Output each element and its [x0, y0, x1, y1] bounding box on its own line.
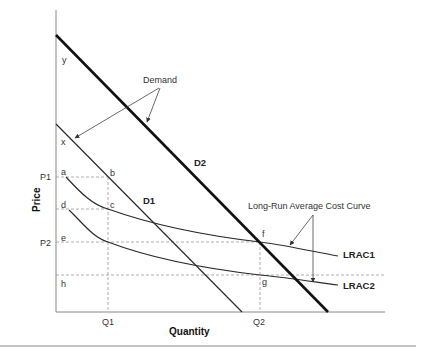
d2-label: D2 — [194, 157, 206, 168]
lrac1-label: LRAC1 — [343, 249, 375, 260]
point-g: g — [262, 277, 267, 287]
point-e: e — [61, 233, 66, 243]
point-d: d — [61, 200, 66, 210]
demand-annotation: Demand — [143, 75, 177, 85]
guide-lines — [56, 177, 384, 312]
point-f: f — [262, 229, 265, 239]
tick-q1: Q1 — [102, 317, 114, 327]
demand-arrows — [75, 88, 160, 138]
d1-label: D1 — [143, 195, 156, 206]
economics-diagram: Demand Long-Run Average Cost Curve D2 D1… — [0, 0, 426, 357]
lrac1-curve — [66, 177, 338, 256]
point-y: y — [62, 55, 67, 65]
x-axis-title: Quantity — [169, 326, 210, 337]
point-c: c — [110, 200, 115, 210]
axes — [56, 10, 385, 312]
point-b: b — [110, 168, 115, 178]
tick-p2: P2 — [40, 238, 51, 248]
point-a: a — [61, 167, 66, 177]
d2-curve — [56, 35, 328, 312]
lrac-annotation: Long-Run Average Cost Curve — [248, 201, 370, 211]
point-h: h — [61, 279, 66, 289]
y-axis-title: Price — [31, 187, 42, 212]
d1-curve — [56, 124, 242, 312]
point-x: x — [61, 137, 66, 147]
tick-p1: P1 — [40, 172, 51, 182]
lrac2-label: LRAC2 — [343, 280, 375, 291]
tick-q2: Q2 — [253, 317, 265, 327]
